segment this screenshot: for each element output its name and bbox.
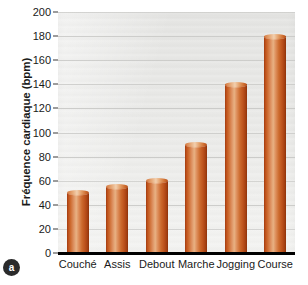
y-tick-label: 140 [11, 78, 51, 90]
x-axis-line [58, 252, 295, 255]
y-tick-label: 160 [11, 54, 51, 66]
panel-badge: a [3, 259, 20, 276]
x-tick-label: Assis [104, 258, 130, 270]
bar [264, 36, 286, 253]
x-tick-label: Couché [59, 258, 97, 270]
y-tick-label: 100 [11, 127, 51, 139]
bar [185, 145, 207, 253]
y-tick-label: 180 [11, 30, 51, 42]
bar [225, 84, 247, 253]
bar [106, 187, 128, 253]
bar-top-ellipse [67, 190, 89, 195]
x-tick-label: Jogging [216, 258, 255, 270]
y-tick-label: 60 [11, 175, 51, 187]
y-tick-label: 20 [11, 223, 51, 235]
bar-top-ellipse [185, 142, 207, 147]
bar [67, 193, 89, 253]
bar-top-ellipse [146, 178, 168, 183]
y-axis-tick-labels: 020406080100120140160180200 [18, 0, 58, 285]
y-tick-label: 40 [11, 199, 51, 211]
bar-series [58, 12, 295, 253]
y-tick-label: 0 [11, 247, 51, 259]
bar-top-ellipse [106, 184, 128, 189]
y-tick-label: 200 [11, 6, 51, 18]
x-tick-label: Debout [139, 258, 174, 270]
bar [146, 181, 168, 253]
y-tick-label: 120 [11, 102, 51, 114]
x-tick-label: Course [258, 258, 293, 270]
bar-top-ellipse [264, 34, 286, 39]
bar-top-ellipse [225, 82, 247, 87]
x-tick-label: Marche [178, 258, 215, 270]
x-axis-tick-labels: CouchéAssisDeboutMarcheJoggingCourse [58, 258, 295, 280]
plot-area [58, 12, 295, 253]
chart-figure: Fréquence cardiaque (bpm) 02040608010012… [0, 0, 308, 285]
y-tick-label: 80 [11, 151, 51, 163]
